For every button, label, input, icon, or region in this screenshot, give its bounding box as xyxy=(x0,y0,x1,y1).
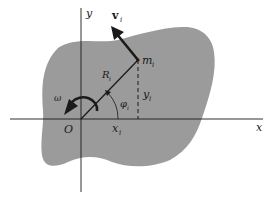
y-coord-subscript: i xyxy=(149,95,151,103)
mass-point xyxy=(136,58,139,61)
velocity-arrowhead-icon xyxy=(111,26,124,40)
velocity-subscript: i xyxy=(120,16,122,24)
angle-label: φ xyxy=(120,98,127,109)
omega-label: ω xyxy=(54,93,62,103)
x-axis-label: x xyxy=(256,121,263,134)
velocity-label: v xyxy=(111,9,119,22)
x-coord-subscript: i xyxy=(119,129,121,137)
y-axis-label: y xyxy=(85,7,93,20)
origin-label: O xyxy=(64,123,73,136)
mass-label: m xyxy=(142,54,152,67)
mass-subscript: i xyxy=(152,61,154,69)
radius-subscript: i xyxy=(109,75,111,82)
rigid-body-diagram: y x O v i m i R i y i φ i x i ω xyxy=(0,0,273,197)
x-coord-label: x xyxy=(112,122,119,135)
angle-subscript: i xyxy=(127,104,129,111)
